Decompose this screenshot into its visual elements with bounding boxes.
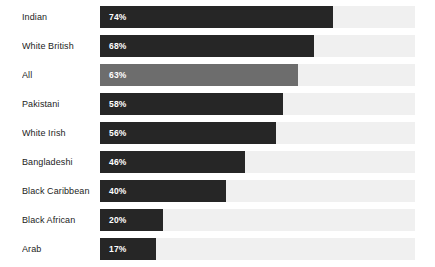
bar-category-label: Black Caribbean [22, 186, 100, 197]
chart-row: Pakistani58% [22, 93, 415, 115]
chart-row: Black Caribbean40% [22, 180, 415, 202]
bar-track: 56% [100, 122, 415, 144]
chart-rows: Indian74%White British68%All63%Pakistani… [22, 6, 415, 260]
chart-row: Bangladeshi46% [22, 151, 415, 173]
chart-row: White Irish56% [22, 122, 415, 144]
bar-category-label: White Irish [22, 128, 100, 139]
bar-track: 17% [100, 238, 415, 260]
bar-track: 68% [100, 35, 415, 57]
bar: 56% [100, 122, 276, 144]
bar: 40% [100, 180, 226, 202]
bar: 63% [100, 64, 298, 86]
bar: 46% [100, 151, 245, 173]
bar-track: 20% [100, 209, 415, 231]
bar: 74% [100, 6, 333, 28]
bar-value-label: 63% [109, 70, 127, 80]
bar-category-label: Black African [22, 215, 100, 226]
bar-value-label: 58% [109, 99, 127, 109]
bar-value-label: 68% [109, 41, 127, 51]
chart-row: White British68% [22, 35, 415, 57]
bar-category-label: All [22, 70, 100, 81]
chart-row: Arab17% [22, 238, 415, 260]
bar-category-label: Bangladeshi [22, 157, 100, 168]
bar-category-label: Pakistani [22, 99, 100, 110]
bar: 17% [100, 238, 156, 260]
bar-track: 74% [100, 6, 415, 28]
bar-value-label: 20% [109, 215, 127, 225]
bar-category-label: Indian [22, 12, 100, 23]
bar: 20% [100, 209, 163, 231]
bar-value-label: 46% [109, 157, 127, 167]
bar-category-label: White British [22, 41, 100, 52]
bar-value-label: 56% [109, 128, 127, 138]
chart-row: All63% [22, 64, 415, 86]
bar-chart: Indian74%White British68%All63%Pakistani… [0, 0, 435, 267]
bar-category-label: Arab [22, 244, 100, 255]
bar-track: 40% [100, 180, 415, 202]
bar-value-label: 74% [109, 12, 127, 22]
bar-value-label: 40% [109, 186, 127, 196]
bar-track: 46% [100, 151, 415, 173]
bar-track: 58% [100, 93, 415, 115]
chart-row: Black African20% [22, 209, 415, 231]
bar: 68% [100, 35, 314, 57]
bar: 58% [100, 93, 283, 115]
chart-row: Indian74% [22, 6, 415, 28]
bar-track: 63% [100, 64, 415, 86]
bar-value-label: 17% [109, 244, 127, 254]
